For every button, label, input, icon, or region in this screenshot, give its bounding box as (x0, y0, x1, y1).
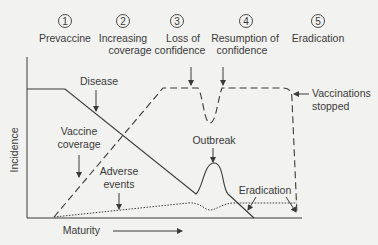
stage-label: Eradication (292, 32, 345, 44)
disease-line (27, 89, 254, 218)
stage-number: 4 (243, 16, 249, 27)
vaccine-coverage-annotation: coverage (57, 138, 100, 150)
disease-annotation: Disease (80, 75, 118, 87)
eradication-annotation: Eradication (239, 184, 292, 196)
adverse-events-annotation: events (104, 178, 135, 190)
x-axis-label: Maturity (63, 224, 101, 236)
y-axis-label: Incidence (8, 127, 20, 172)
stage-4: 4 Resumption of confidence (211, 15, 279, 57)
stage-label: Loss of (166, 32, 200, 44)
vaccine-coverage-annotation: Vaccine (61, 125, 98, 137)
stage-number: 1 (62, 16, 68, 27)
stage-3: 3 Loss of confidence (155, 15, 206, 57)
stage-label: Resumption of (211, 32, 279, 44)
stage-number: 2 (120, 16, 126, 27)
stage-label: coverage (108, 44, 151, 56)
stage-label: confidence (155, 44, 206, 56)
adverse-events-line (54, 203, 297, 217)
diagram-svg: 1 Prevaccine 2 Increasing coverage 3 Los… (0, 0, 378, 245)
vaccine-program-evolution-diagram: 1 Prevaccine 2 Increasing coverage 3 Los… (0, 0, 378, 245)
stage-label: confidence (217, 44, 268, 56)
vaccine-coverage-line (54, 88, 297, 217)
stage-number: 5 (315, 16, 321, 27)
vaccinations-stopped-annotation: stopped (312, 100, 350, 112)
stage-1: 1 Prevaccine (39, 15, 91, 45)
eradication-arrow-icon (286, 197, 296, 212)
outbreak-annotation: Outbreak (192, 134, 236, 146)
vaccinations-stopped-annotation: Vaccinations (312, 87, 371, 99)
stage-label: Prevaccine (39, 32, 91, 44)
stage-number: 3 (174, 16, 180, 27)
adverse-events-annotation: Adverse (100, 165, 139, 177)
stage-label: Increasing (99, 32, 148, 44)
stage-2: 2 Increasing coverage (99, 15, 152, 57)
stage-5: 5 Eradication (292, 15, 345, 45)
